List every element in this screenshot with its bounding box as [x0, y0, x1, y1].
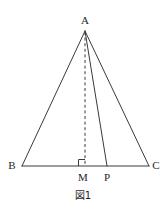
- vertex-label-b: B: [8, 160, 15, 171]
- figure-caption: 図1: [0, 190, 166, 202]
- segment-ab: [22, 31, 85, 166]
- vertex-label-c: C: [152, 160, 159, 171]
- segment-ap: [85, 31, 107, 166]
- vertex-label-a: A: [81, 15, 89, 26]
- vertex-label-m: M: [78, 172, 88, 183]
- right-angle-mark-icon: [79, 160, 86, 167]
- geometry-figure: A B C M P 図1: [0, 0, 166, 208]
- segment-ac: [85, 31, 149, 166]
- vertex-label-p: P: [104, 172, 110, 183]
